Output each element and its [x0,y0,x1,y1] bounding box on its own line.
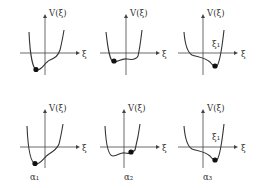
xi1-marker-label: ξ₁ [212,39,220,49]
potential-curve [184,124,224,160]
xi1-marker-label: ξ₁ [212,132,220,142]
y-axis-label: V(ξ) [48,103,66,113]
panel-r2c3: V(ξ) ξ ξ₁ α₃ [178,103,246,182]
y-axis-label: V(ξ) [206,8,224,18]
y-axis-label: V(ξ) [129,8,147,18]
potential-diagram: V(ξ) ξ V(ξ) ξ V(ξ) ξ ξ₁ V(ξ) ξ α₁ V(ξ) [0,0,266,188]
potential-curve [106,30,142,62]
panel-r2c1: V(ξ) ξ α₁ [20,103,87,182]
x-axis-label: ξ [82,49,87,59]
x-axis-label: ξ [82,143,87,153]
alpha2-label: α₂ [124,172,133,182]
panel-r1c2: V(ξ) ξ [100,8,167,75]
alpha1-label: α₁ [30,172,39,182]
y-axis-label: V(ξ) [206,103,224,113]
alpha3-label: α₃ [203,172,212,182]
potential-curve [29,30,64,70]
panel-r1c3: V(ξ) ξ ξ₁ [178,8,246,75]
panel-r1c1: V(ξ) ξ [20,8,87,75]
ball-icon [33,67,38,72]
y-axis-label: V(ξ) [48,8,66,18]
ball-icon [212,63,217,68]
ball-icon [128,149,133,154]
y-axis-label: V(ξ) [127,103,145,113]
x-axis-label: ξ [162,143,167,153]
ball-icon [32,161,37,166]
x-axis-label: ξ [162,49,167,59]
ball-icon [111,58,116,63]
x-axis-label: ξ [241,49,246,59]
panel-r2c2: V(ξ) ξ α₂ [100,103,167,182]
potential-curve [105,124,140,156]
x-axis-label: ξ [241,143,246,153]
ball-icon [212,157,217,162]
